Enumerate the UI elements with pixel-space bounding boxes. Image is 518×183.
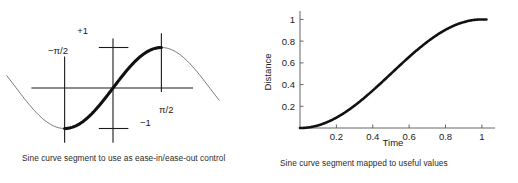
y-tick-label: 0.8 — [282, 36, 295, 47]
y-tick-label: 1 — [290, 14, 295, 25]
y-tick-label: 0.4 — [282, 79, 295, 90]
sine-segment-diagram-svg: +1 −1 −π/2 π/2 — [0, 0, 259, 150]
x-tick-label: 1 — [479, 131, 484, 142]
figure-sine-mapped-plot: 0.20.40.60.81 0.20.40.60.81 Time Distanc… — [259, 0, 518, 183]
caption-sine-segment-diagram: Sine curve segment to use as ease-in/eas… — [22, 153, 237, 164]
x-tick-label: 0.4 — [366, 131, 379, 142]
label-minus-one: −1 — [140, 117, 151, 128]
y-axis-ticks — [300, 19, 304, 106]
label-plus-one: +1 — [77, 25, 88, 36]
x-tick-label: 0.6 — [403, 131, 416, 142]
y-tick-label: 0.2 — [282, 101, 295, 112]
label-neg-half-pi: −π/2 — [48, 45, 68, 56]
x-axis-ticks — [336, 125, 482, 129]
x-tick-label: 0.2 — [330, 131, 343, 142]
ease-curve — [300, 19, 486, 128]
y-tick-label: 0.6 — [282, 57, 295, 68]
sine-mapped-plot-svg: 0.20.40.60.81 0.20.40.60.81 Time Distanc… — [259, 0, 518, 155]
x-axis-label: Time — [383, 137, 404, 148]
label-half-pi: π/2 — [159, 104, 173, 115]
x-axis-tick-labels: 0.20.40.60.81 — [330, 131, 485, 142]
figure-sine-segment-diagram: +1 −1 −π/2 π/2 Sine curve segment to use… — [0, 0, 259, 183]
figure-pair-container: +1 −1 −π/2 π/2 Sine curve segment to use… — [0, 0, 518, 183]
caption-sine-mapped-plot: Sine curve segment mapped to useful valu… — [280, 158, 510, 169]
x-tick-label: 0.8 — [439, 131, 452, 142]
y-axis-label: Distance — [262, 54, 273, 91]
y-axis-tick-labels: 0.20.40.60.81 — [282, 14, 295, 112]
